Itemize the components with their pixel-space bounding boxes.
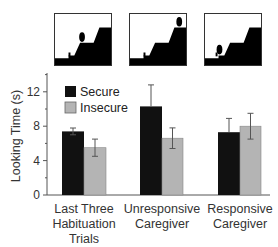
legend-label-insecure: Insecure xyxy=(80,101,128,115)
y-tick-label-12: 12 xyxy=(27,85,41,99)
legend-swatch-secure xyxy=(65,86,76,97)
legend-swatch-insecure xyxy=(65,102,76,113)
legend-label-secure: Secure xyxy=(80,85,120,99)
y-tick-label-8: 8 xyxy=(33,119,40,133)
y-tick-label-4: 4 xyxy=(33,154,40,168)
bar-secure-responsive xyxy=(218,132,240,195)
category-label-responsive: Responsive Caregiver xyxy=(200,202,278,232)
bar-secure-habituation xyxy=(62,131,84,195)
category-label-line: Habituation xyxy=(44,217,124,232)
bar-secure-unresponsive xyxy=(140,106,162,195)
category-label-line: Unresponsive xyxy=(122,202,202,217)
category-label-line: Caregiver xyxy=(122,217,202,232)
y-tick-label-0: 0 xyxy=(33,188,40,202)
y-axis-title: Looking Time (s) xyxy=(9,90,23,182)
category-label-line: Caregiver xyxy=(200,217,278,232)
category-label-line: Trials xyxy=(44,232,124,247)
category-label-line: Last Three xyxy=(44,202,124,217)
legend: Secure Insecure xyxy=(65,85,128,115)
category-label-unresponsive: Unresponsive Caregiver xyxy=(122,202,202,232)
y-ticks xyxy=(43,75,47,195)
category-label-line: Responsive xyxy=(200,202,278,217)
category-label-habituation: Last Three Habituation Trials xyxy=(44,202,124,247)
